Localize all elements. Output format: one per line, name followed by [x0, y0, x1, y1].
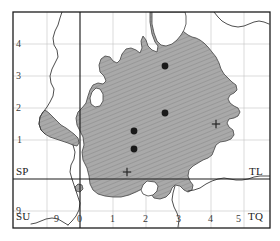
x-tick-9-lower: 9 — [54, 214, 59, 224]
y-tick-3: 3 — [16, 71, 21, 81]
record-dot — [131, 128, 138, 135]
record-dot — [162, 63, 169, 70]
grid-square-label-sp: SP — [16, 166, 29, 177]
x-tick-4: 4 — [208, 214, 213, 224]
x-tick-0: 0 — [77, 214, 82, 224]
y-tick-1: 1 — [17, 135, 22, 145]
record-dot — [131, 146, 138, 153]
y-tick-2: 2 — [16, 103, 21, 113]
y-tick-4: 4 — [16, 39, 21, 49]
x-tick-5: 5 — [236, 214, 241, 224]
map-canvas — [0, 0, 280, 241]
grid-square-label-su: SU — [16, 211, 30, 222]
x-tick-2: 2 — [143, 214, 148, 224]
record-dot — [162, 110, 169, 117]
distribution-map: 4 3 2 1 9 0 1 2 3 4 5 9 SP TL SU TQ — [0, 0, 280, 241]
grid-square-label-tq: TQ — [248, 211, 263, 222]
grid-square-label-tl: TL — [249, 166, 263, 177]
x-tick-3: 3 — [176, 214, 181, 224]
x-tick-1: 1 — [110, 214, 115, 224]
